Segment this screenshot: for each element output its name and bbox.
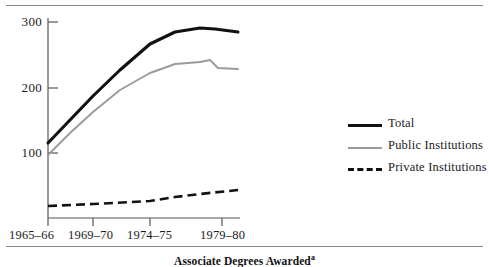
legend-label-private: Private Institutions [388,160,487,175]
figure-caption: Associate Degrees Awardeda [0,253,489,267]
series-line-public [48,60,238,155]
series-line-total [48,28,238,143]
x-tick-label-1965-66: 1965–66 [9,228,54,243]
legend-swatch-private-icon [348,168,382,171]
figure-caption-text: Associate Degrees Awarded [174,255,311,267]
y-tick-label-300: 300 [8,14,42,30]
x-tick-label-1969-70: 1969–70 [68,228,113,243]
legend-swatch-public-icon [348,147,382,149]
legend-swatch-total-icon [348,124,382,127]
legend-label-public: Public Institutions [388,138,483,153]
legend-label-total: Total [388,116,415,131]
y-tick-label-100: 100 [8,145,42,161]
figure-caption-footnote-marker: a [311,253,315,262]
series-line-private [48,190,238,206]
x-tick-label-1974-75: 1974–75 [127,228,172,243]
y-tick-label-200: 200 [8,80,42,96]
x-tick-label-1979-80: 1979–80 [200,228,245,243]
